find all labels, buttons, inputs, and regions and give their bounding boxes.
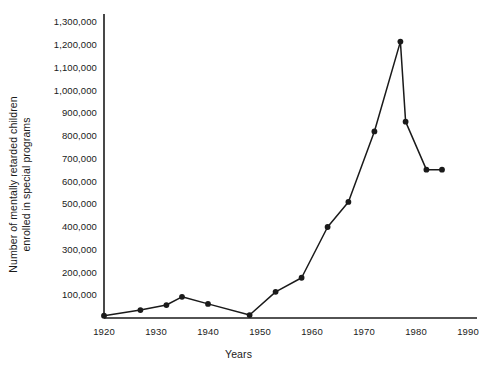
data-point-marker [403, 119, 409, 125]
data-point-marker [424, 167, 430, 173]
data-point-marker [205, 301, 211, 307]
data-point-marker [138, 307, 144, 313]
data-point-marker [398, 39, 404, 45]
data-series-line [104, 42, 442, 316]
data-point-markers [101, 39, 445, 319]
data-point-marker [299, 275, 305, 281]
data-point-marker [247, 312, 253, 318]
data-point-marker [101, 313, 107, 319]
data-point-marker [164, 302, 170, 308]
data-point-marker [325, 224, 331, 230]
data-point-marker [273, 289, 279, 295]
data-point-marker [346, 199, 352, 205]
data-point-marker [439, 167, 445, 173]
data-point-marker [179, 294, 185, 300]
data-point-marker [372, 129, 378, 135]
